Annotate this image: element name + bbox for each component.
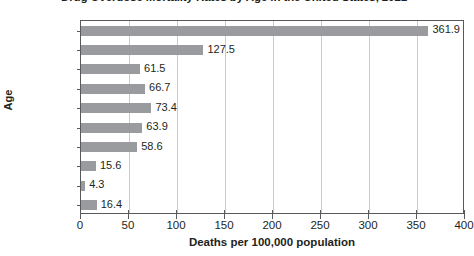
- bar-value-label: 361.9: [428, 23, 460, 35]
- x-axis-tick: [80, 210, 81, 219]
- bar-value-label: 4.3: [85, 178, 104, 190]
- bar-row: 55–6466.7: [81, 79, 463, 98]
- bar[interactable]: [81, 161, 96, 171]
- x-axis-tick: [416, 210, 417, 219]
- bar[interactable]: [81, 142, 137, 152]
- bar[interactable]: [81, 200, 97, 210]
- bar[interactable]: [81, 103, 151, 113]
- x-axis-tick-label: 350: [406, 219, 425, 231]
- bar-value-label: 15.6: [96, 159, 121, 171]
- x-axis-tick: [176, 210, 177, 219]
- plot-area: 85 and over361.975–84127.565–7461.555–64…: [80, 20, 464, 214]
- x-axis-title: Deaths per 100,000 population: [80, 236, 464, 248]
- x-axis-tick: [464, 210, 465, 219]
- bar-value-label: 16.4: [97, 198, 122, 210]
- bar-row: 65–7461.5: [81, 60, 463, 79]
- x-axis-tick-labels: 050100150200250300350400: [80, 219, 464, 234]
- bar[interactable]: [81, 64, 140, 74]
- bar-value-label: 66.7: [145, 81, 170, 93]
- x-axis-tick-label: 0: [77, 219, 83, 231]
- x-axis-tick-label: 200: [262, 219, 281, 231]
- x-axis-tick-label: 100: [166, 219, 185, 231]
- bar-row: 75–84127.5: [81, 40, 463, 59]
- x-axis-tick: [320, 210, 321, 219]
- bars-layer: 85 and over361.975–84127.565–7461.555–64…: [81, 21, 463, 213]
- x-axis-tick-label: 400: [454, 219, 473, 231]
- bar-value-label: 127.5: [203, 43, 235, 55]
- bar-value-label: 58.6: [137, 140, 162, 152]
- bar-row: 85 and over361.9: [81, 21, 463, 40]
- bar-value-label: 61.5: [140, 62, 165, 74]
- x-axis-ticks: [80, 210, 464, 219]
- bar[interactable]: [81, 123, 142, 133]
- x-axis-tick: [368, 210, 369, 219]
- bar-row: 45–5473.4: [81, 99, 463, 118]
- bar-value-label: 63.9: [142, 120, 167, 132]
- bar[interactable]: [81, 45, 203, 55]
- bar[interactable]: [81, 26, 428, 36]
- bar-row: 12–1715.6: [81, 157, 463, 176]
- bar-row: 5–114.3: [81, 176, 463, 195]
- y-axis-title: Age: [2, 74, 14, 126]
- bar-row: 25–4463.9: [81, 118, 463, 137]
- x-axis-tick-label: 50: [122, 219, 135, 231]
- x-axis-tick-label: 300: [358, 219, 377, 231]
- x-axis-tick: [272, 210, 273, 219]
- bar-value-label: 73.4: [151, 101, 176, 113]
- bar-row: 18–2458.6: [81, 137, 463, 156]
- x-axis-tick: [224, 210, 225, 219]
- x-axis-tick-label: 150: [214, 219, 233, 231]
- x-axis-tick: [128, 210, 129, 219]
- chart-title: Drug Overdose Mortality Rates by Age in …: [0, 0, 468, 3]
- x-axis-tick-label: 250: [310, 219, 329, 231]
- bar[interactable]: [81, 84, 145, 94]
